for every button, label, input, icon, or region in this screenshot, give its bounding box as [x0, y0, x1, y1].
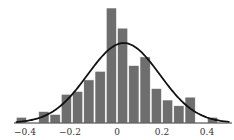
histogram-bar	[174, 106, 184, 123]
histogram-chart: −0.4−0.200.20.4	[0, 0, 234, 140]
histogram-bar	[129, 66, 139, 124]
histogram-bar	[163, 100, 173, 123]
histogram-bar	[140, 57, 150, 123]
histogram-bar	[151, 89, 161, 124]
x-tick-label: −0.2	[59, 127, 81, 137]
x-tick-label: 0.4	[200, 127, 215, 137]
histogram-bar	[50, 114, 60, 123]
histogram-bar	[61, 94, 71, 123]
x-tick-labels: −0.4−0.200.20.4	[14, 127, 214, 137]
x-tick-label: 0	[114, 127, 120, 137]
x-tick-label: 0.2	[155, 127, 169, 137]
histogram-bar	[84, 80, 94, 123]
histogram-bar	[95, 71, 105, 123]
histogram-bar	[73, 91, 83, 123]
histogram-bar	[106, 8, 116, 123]
x-tick-label: −0.4	[14, 127, 36, 137]
